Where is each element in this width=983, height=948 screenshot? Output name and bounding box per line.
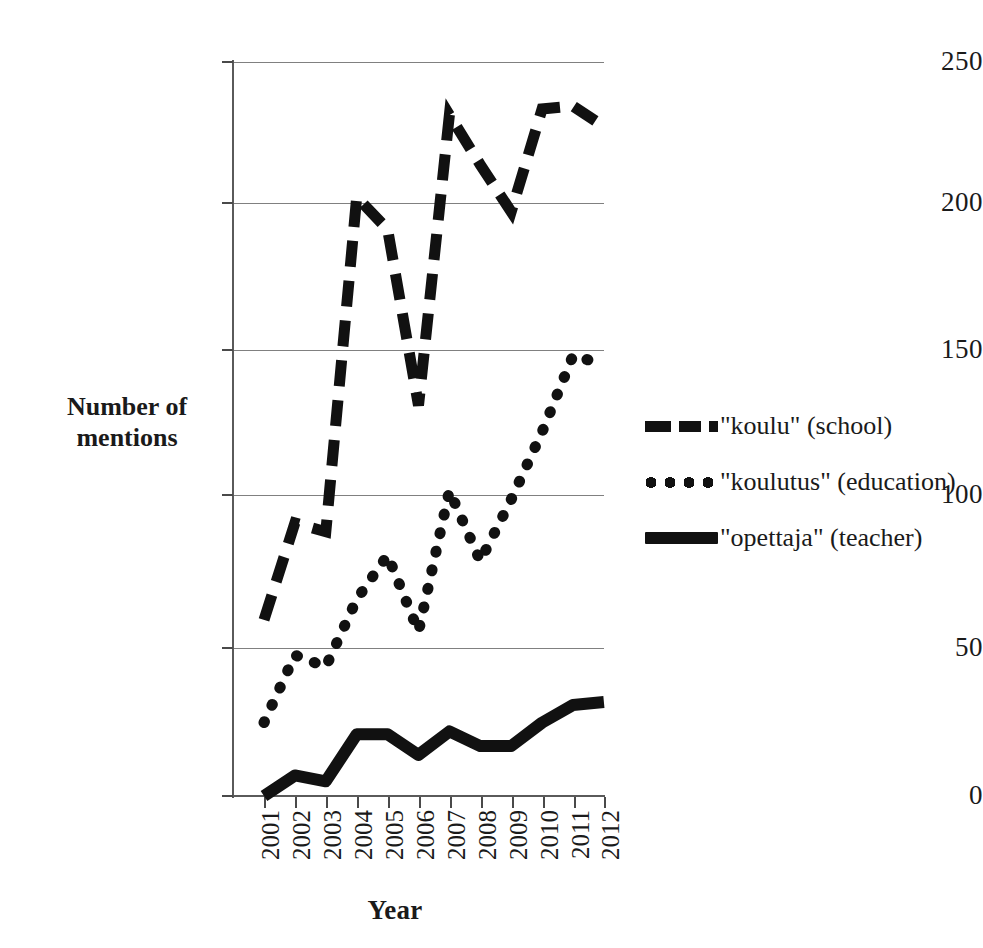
y-tick-label-0: 0: [768, 782, 983, 809]
x-tick-2002: [295, 797, 297, 808]
x-tick-label-2011: 2011: [568, 810, 593, 859]
x-tick-label-2005: 2005: [382, 810, 407, 860]
x-tick-label-2012: 2012: [598, 810, 623, 860]
solid-line-icon: [645, 527, 718, 549]
x-tick-label-2007: 2007: [444, 810, 469, 860]
legend-item-opettaja: "opettaja" (teacher): [645, 510, 975, 566]
x-tick-2007: [450, 797, 452, 808]
y-tick-0: [222, 795, 233, 797]
x-tick-label-2006: 2006: [413, 810, 438, 860]
x-tick-label-2002: 2002: [289, 810, 314, 860]
x-tick-2011: [574, 797, 576, 808]
x-tick-label-2003: 2003: [320, 810, 345, 860]
gridline-200: [233, 203, 604, 204]
y-axis-line: [232, 60, 234, 798]
x-tick-2012: [604, 797, 606, 808]
y-tick-label-200: 200: [768, 189, 983, 216]
legend-item-koulu: "koulu" (school): [645, 398, 975, 454]
x-tick-2010: [543, 797, 545, 808]
x-tick-2009: [512, 797, 514, 808]
gridline-50: [233, 648, 604, 649]
legend-label-koulu: "koulu" (school): [720, 413, 892, 439]
y-tick-label-150: 150: [768, 336, 983, 363]
x-tick-label-2004: 2004: [351, 810, 376, 860]
x-axis-title: Year: [0, 895, 790, 926]
x-tick-2005: [388, 797, 390, 808]
gridline-150: [233, 350, 604, 351]
y-axis-title-line2: mentions: [36, 423, 218, 454]
x-tick-2008: [481, 797, 483, 808]
y-tick-100: [222, 494, 233, 496]
legend: "koulu" (school) "koulutus" (education) …: [645, 398, 975, 566]
gridline-100: [233, 495, 604, 496]
x-tick-label-2001: 2001: [258, 810, 283, 860]
y-tick-200: [222, 202, 233, 204]
y-axis-title-line1: Number of: [36, 392, 218, 423]
dotted-line-icon: [645, 471, 718, 493]
x-tick-label-2010: 2010: [537, 810, 562, 860]
y-tick-50: [222, 647, 233, 649]
y-tick-label-250: 250: [768, 48, 983, 75]
y-tick-250: [222, 61, 233, 63]
x-tick-label-2009: 2009: [506, 810, 531, 860]
x-tick-2004: [357, 797, 359, 808]
x-tick-label-2008: 2008: [475, 810, 500, 860]
gridline-250: [233, 62, 604, 63]
y-tick-150: [222, 349, 233, 351]
y-axis-title: Number of mentions: [36, 392, 218, 453]
x-tick-2006: [419, 797, 421, 808]
dashed-line-icon: [645, 415, 718, 437]
legend-label-koulutus: "koulutus" (education): [720, 469, 956, 495]
y-tick-label-50: 50: [768, 634, 983, 661]
legend-label-opettaja: "opettaja" (teacher): [720, 525, 922, 551]
line-chart: 250 200 150 100 50 0 2001 2002 2003 2004…: [0, 0, 983, 948]
x-tick-2001: [264, 797, 266, 808]
plot-area: [233, 62, 604, 796]
legend-item-koulutus: "koulutus" (education): [645, 454, 975, 510]
x-tick-2003: [326, 797, 328, 808]
